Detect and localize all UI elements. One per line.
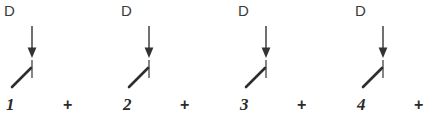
switch-group: D 1 (0, 0, 96, 120)
switch-group: D 2 (117, 0, 213, 120)
plus-operator: + (63, 95, 72, 115)
switch-series-diagram: D 1 D 2 D (0, 0, 428, 120)
diode-label: D (238, 2, 249, 20)
plus-operator: + (297, 95, 306, 115)
term-number: 4 (357, 95, 366, 115)
open-switch-icon (240, 56, 280, 92)
arrow-down-icon (20, 26, 44, 60)
diode-label: D (121, 2, 132, 20)
arrow-down-icon (137, 26, 161, 60)
plus-operator: + (180, 95, 189, 115)
open-switch-icon (6, 56, 46, 92)
open-switch-icon (357, 56, 397, 92)
plus-operator: + (414, 95, 423, 115)
term-number: 1 (6, 95, 15, 115)
term-number: 2 (123, 95, 132, 115)
diode-label: D (355, 2, 366, 20)
switch-group: D 3 (234, 0, 330, 120)
arrow-down-icon (254, 26, 278, 60)
arrow-down-icon (371, 26, 395, 60)
term-number: 3 (240, 95, 249, 115)
open-switch-icon (123, 56, 163, 92)
diode-label: D (4, 2, 15, 20)
